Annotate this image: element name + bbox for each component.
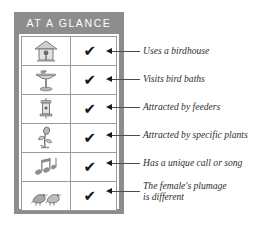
leader-line-1 <box>112 51 140 52</box>
table-frame: ✔ <box>19 34 119 209</box>
bird-feeder-icon <box>22 96 70 122</box>
check-cell-flowering-plant: ✔ <box>71 124 117 153</box>
leader-line-5 <box>112 163 140 164</box>
checkmark-icon: ✔ <box>83 189 96 204</box>
icon-cell-music-notes <box>22 153 71 182</box>
leader-line-3 <box>112 107 140 108</box>
checkmark-icon: ✔ <box>83 131 96 146</box>
flowering-plant-icon <box>22 125 70 151</box>
checkmark-icon: ✔ <box>83 44 96 59</box>
caption-has-a-unique-call-or-song: Has a unique call or song <box>143 157 253 168</box>
icon-cell-birdhouse <box>22 37 71 66</box>
at-a-glance-panel: AT A GLANCE <box>14 12 124 214</box>
bird-bath-icon <box>22 67 70 93</box>
icon-cell-bird-bath <box>22 66 71 95</box>
table-row: ✔ <box>22 37 117 66</box>
check-cell-music-notes: ✔ <box>71 153 117 182</box>
leader-line-2 <box>112 79 140 80</box>
music-notes-icon <box>22 154 70 180</box>
page-title: AT A GLANCE <box>14 17 124 30</box>
bird-pair-icon <box>22 183 70 209</box>
caption-attracted-by-feeders: Attracted by feeders <box>143 101 253 112</box>
table-row: ✔ <box>22 153 117 182</box>
leader-line-4 <box>112 135 140 136</box>
caption-uses-a-birdhouse: Uses a birdhouse <box>143 45 253 56</box>
checkmark-icon: ✔ <box>83 160 96 175</box>
caption-female-plumage-line2: is different <box>143 191 253 202</box>
check-cell-bird-pair: ✔ <box>71 182 117 211</box>
caption-visits-bird-baths: Visits bird baths <box>143 73 253 84</box>
icon-cell-flowering-plant <box>22 124 71 153</box>
caption-female-plumage-line1: The female's plumage <box>143 180 253 191</box>
icon-cell-bird-pair <box>22 182 71 211</box>
table-row: ✔ <box>22 182 117 211</box>
leader-line-6 <box>112 191 140 192</box>
table-row: ✔ <box>22 66 117 95</box>
at-a-glance-table: ✔ <box>21 36 117 211</box>
table-row: ✔ <box>22 124 117 153</box>
caption-attracted-by-specific-plants: Attracted by specific plants <box>143 129 253 140</box>
caption-female-plumage: The female's plumage is different <box>143 180 253 202</box>
table-row: ✔ <box>22 95 117 124</box>
checkmark-icon: ✔ <box>83 102 96 117</box>
checkmark-icon: ✔ <box>83 73 96 88</box>
icon-cell-bird-feeder <box>22 95 71 124</box>
birdhouse-icon <box>22 38 70 64</box>
